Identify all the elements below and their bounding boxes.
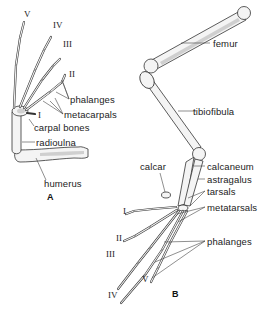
phalanges-leader-b <box>152 241 205 278</box>
panel-label-b: B <box>172 290 179 299</box>
hindlimb-drawing <box>118 7 251 304</box>
label-astragalus: astragalus <box>207 175 252 185</box>
digit-label-ii-b: II <box>116 234 122 243</box>
digit-label-ii-a: II <box>69 70 75 79</box>
digit-i-bones <box>27 113 35 114</box>
label-calcar: calcar <box>140 162 166 172</box>
label-phalanges-b: phalanges <box>207 237 252 247</box>
digit-label-iv-b: IV <box>108 291 118 300</box>
digit-label-v-a: V <box>24 10 31 19</box>
digit-label-i-b: I <box>123 207 126 216</box>
digit-label-iv-a: IV <box>53 21 63 30</box>
radioulna-bone <box>12 111 21 154</box>
metacarpals-leader <box>43 98 63 114</box>
digit-label-iii-a: III <box>63 40 72 49</box>
digit-label-i-a: I <box>38 111 41 120</box>
frog-skeleton-figure: V IV III II I phalanges metacarpals carp… <box>0 0 266 314</box>
label-calcaneum: calcaneum <box>207 162 254 172</box>
digit-label-iii-b: III <box>106 250 115 259</box>
label-humerus: humerus <box>44 179 82 189</box>
label-phalanges-a: phalanges <box>70 95 115 105</box>
label-femur: femur <box>213 39 238 49</box>
label-tibiofibula: tibiofibula <box>193 107 234 117</box>
calcar-bone <box>162 192 171 198</box>
label-tarsals: tarsals <box>207 187 236 197</box>
digit-label-v-b: V <box>142 275 149 284</box>
label-carpal-bones: carpal bones <box>34 123 90 133</box>
label-metatarsals: metatarsals <box>207 203 257 213</box>
calcar-leader <box>160 173 165 192</box>
panel-label-a: A <box>47 193 54 202</box>
label-radioulna: radioulna <box>36 138 76 148</box>
label-metacarpals: metacarpals <box>64 110 117 120</box>
humerus-leader <box>36 158 46 180</box>
